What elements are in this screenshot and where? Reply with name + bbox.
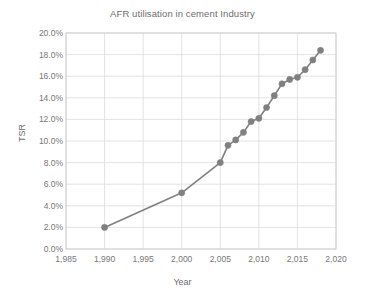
data-point-marker xyxy=(233,137,239,143)
data-point-marker xyxy=(263,104,269,110)
data-point-marker xyxy=(294,74,300,80)
data-point-marker xyxy=(225,142,231,148)
data-point-marker xyxy=(248,118,254,124)
data-point-marker xyxy=(310,57,316,63)
chart-container: AFR utilisation in cement Industry TSR Y… xyxy=(0,0,365,299)
data-point-marker xyxy=(217,160,223,166)
plot-area xyxy=(0,0,365,299)
data-point-marker xyxy=(317,47,323,53)
data-point-marker xyxy=(179,190,185,196)
data-point-marker xyxy=(240,129,246,135)
data-point-marker xyxy=(279,81,285,87)
data-point-marker xyxy=(271,93,277,99)
data-point-marker xyxy=(256,115,262,121)
data-point-marker xyxy=(101,224,107,230)
data-point-marker xyxy=(302,67,308,73)
data-point-marker xyxy=(287,76,293,82)
